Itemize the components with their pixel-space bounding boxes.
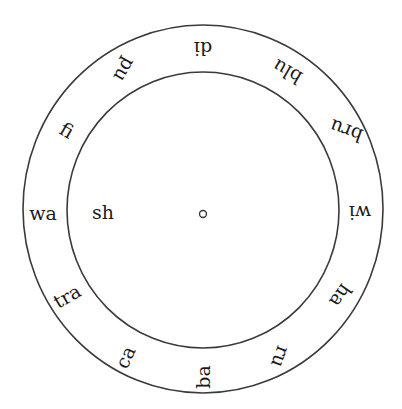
ring-label-di: di [194,38,212,60]
ring-label-wi: wi [349,202,371,224]
center-dot [200,211,207,218]
ring-label-fi: fi [56,117,78,143]
syllable-wheel: diblubruwiharubacatrawafipu sh [0,0,402,409]
outer-circle [23,25,383,393]
ring-label-ca: ca [110,342,139,371]
ring-label-pu: pu [109,54,140,86]
ring-label-ba: ba [192,365,214,389]
ring-label-wa: wa [29,202,57,224]
ring-label-tra: tra [49,279,84,312]
ring-label-blu: blu [268,55,305,89]
ring-label-ru: ru [267,343,295,371]
inner-label: sh [92,201,114,223]
ring-label-ha: ha [325,280,357,312]
